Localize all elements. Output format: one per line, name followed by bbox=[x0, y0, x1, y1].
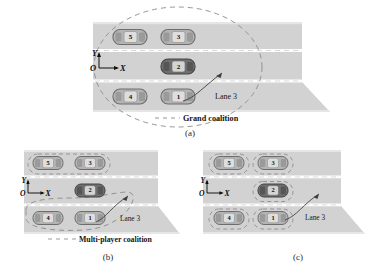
road-bottom-edge bbox=[93, 110, 330, 112]
vehicle-3-label: 3 bbox=[88, 159, 91, 166]
lane-3-label: Lane 3 bbox=[305, 213, 325, 222]
road-top-edge bbox=[93, 22, 302, 24]
vehicle-5-label: 5 bbox=[46, 159, 49, 166]
lane-3-label: Lane 3 bbox=[215, 92, 237, 101]
vehicle-2-label: 2 bbox=[271, 186, 274, 193]
road-bottom-edge bbox=[24, 232, 180, 234]
x-axis-label: X bbox=[224, 189, 231, 198]
vehicle-3[interactable]: 3 bbox=[258, 157, 288, 170]
vehicle-4[interactable]: 4 bbox=[214, 212, 244, 225]
y-axis-label: Y bbox=[92, 48, 98, 58]
x-axis-label: X bbox=[119, 63, 126, 73]
figure-container: 5 3 2 bbox=[0, 0, 382, 270]
vehicle-2-label: 2 bbox=[88, 186, 91, 193]
panel-c-canvas: 5 3 2 4 bbox=[193, 138, 382, 270]
panel-b-caption: (b) bbox=[78, 252, 138, 262]
vehicle-1-label: 1 bbox=[271, 214, 274, 221]
panel-a-caption: (a) bbox=[160, 128, 220, 138]
road-bottom-edge bbox=[203, 232, 365, 234]
vehicle-1-label: 1 bbox=[177, 93, 181, 101]
multiplayer-coalition-annotation: Multi-player coalition bbox=[48, 235, 153, 244]
origin-label: O bbox=[90, 63, 96, 73]
road-top-edge bbox=[24, 150, 158, 152]
vehicle-4-label: 4 bbox=[129, 93, 133, 101]
grand-coalition-annotation: Grand coalition bbox=[155, 114, 239, 123]
vehicle-4[interactable]: 4 bbox=[113, 89, 147, 104]
vehicle-4[interactable]: 4 bbox=[33, 212, 63, 225]
vehicle-3-label: 3 bbox=[177, 33, 181, 41]
vehicle-1[interactable]: 1 bbox=[161, 89, 195, 104]
vehicle-5[interactable]: 5 bbox=[214, 157, 244, 170]
panel-c: 5 3 2 4 bbox=[193, 138, 382, 270]
panel-b-canvas: 5 3 2 4 bbox=[0, 138, 196, 270]
panel-a: 5 3 2 bbox=[0, 0, 382, 140]
vehicle-1-label: 1 bbox=[88, 214, 91, 221]
vehicle-1[interactable]: 1 bbox=[75, 212, 105, 225]
vehicle-5[interactable]: 5 bbox=[113, 30, 147, 45]
panel-c-caption: (c) bbox=[268, 252, 328, 262]
vehicle-2-label: 2 bbox=[177, 63, 181, 71]
road-top-edge bbox=[203, 150, 341, 152]
vehicle-2[interactable]: 2 bbox=[75, 184, 105, 197]
multiplayer-coalition-label: Multi-player coalition bbox=[79, 235, 153, 244]
grand-coalition-label: Grand coalition bbox=[183, 114, 239, 123]
vehicle-2[interactable]: 2 bbox=[161, 59, 195, 74]
panel-b: 5 3 2 4 bbox=[0, 138, 196, 270]
vehicle-1[interactable]: 1 bbox=[258, 212, 288, 225]
x-axis-label: X bbox=[45, 189, 52, 198]
vehicle-2[interactable]: 2 bbox=[258, 184, 288, 197]
vehicle-5-label: 5 bbox=[227, 159, 230, 166]
vehicle-5-label: 5 bbox=[129, 33, 133, 41]
vehicle-3-label: 3 bbox=[271, 159, 274, 166]
vehicle-5[interactable]: 5 bbox=[33, 157, 63, 170]
panel-a-canvas: 5 3 2 bbox=[0, 0, 382, 140]
vehicle-3[interactable]: 3 bbox=[75, 157, 105, 170]
lane-3-label: Lane 3 bbox=[120, 214, 140, 223]
origin-label: O bbox=[20, 189, 26, 198]
origin-label: O bbox=[199, 189, 205, 198]
vehicle-3[interactable]: 3 bbox=[161, 30, 195, 45]
